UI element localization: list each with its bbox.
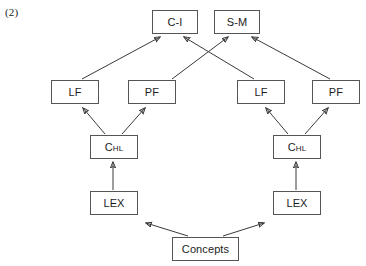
node-label: LF bbox=[68, 87, 81, 98]
node-pf-left[interactable]: PF bbox=[128, 80, 176, 104]
node-label: C bbox=[105, 142, 113, 153]
edge-lf-right-to-ci bbox=[184, 37, 254, 79]
diagram-canvas: (2) C-IS-MLFPFLFPFCHLCHLLEXLEXConcepts bbox=[0, 0, 366, 266]
edge-pf-right-to-sm bbox=[252, 37, 330, 79]
edge-chl-left-to-lf bbox=[83, 108, 105, 134]
node-label-subscript: HL bbox=[296, 145, 307, 153]
node-label: S-M bbox=[227, 17, 247, 28]
edge-layer bbox=[0, 0, 366, 266]
node-chl-left[interactable]: CHL bbox=[90, 135, 138, 159]
node-lex-left[interactable]: LEX bbox=[90, 191, 138, 215]
node-c-i[interactable]: C-I bbox=[152, 10, 198, 34]
edge-chl-right-to-lf bbox=[266, 108, 288, 134]
edge-chl-right-to-pf bbox=[305, 108, 328, 134]
node-lf-left[interactable]: LF bbox=[51, 80, 99, 104]
node-label: C-I bbox=[168, 17, 183, 28]
edge-concepts-to-lex-right bbox=[223, 223, 264, 236]
node-label: LF bbox=[254, 87, 267, 98]
node-label: LEX bbox=[103, 198, 124, 209]
node-lf-right[interactable]: LF bbox=[237, 80, 285, 104]
node-label: C bbox=[288, 142, 296, 153]
node-label: Concepts bbox=[182, 244, 229, 255]
node-label: LEX bbox=[286, 198, 307, 209]
node-lex-right[interactable]: LEX bbox=[273, 191, 321, 215]
edge-lf-left-to-ci bbox=[82, 37, 160, 79]
figure-number-label: (2) bbox=[5, 6, 18, 18]
node-s-m[interactable]: S-M bbox=[214, 10, 260, 34]
edge-chl-left-to-pf bbox=[122, 108, 145, 134]
edge-concepts-to-lex-left bbox=[146, 223, 188, 236]
node-label-subscript: HL bbox=[113, 145, 124, 153]
node-chl-right[interactable]: CHL bbox=[273, 135, 321, 159]
node-label: PF bbox=[329, 87, 343, 98]
node-concepts[interactable]: Concepts bbox=[172, 237, 239, 261]
node-pf-right[interactable]: PF bbox=[312, 80, 360, 104]
edge-pf-left-to-sm bbox=[172, 37, 228, 79]
node-label: PF bbox=[145, 87, 159, 98]
